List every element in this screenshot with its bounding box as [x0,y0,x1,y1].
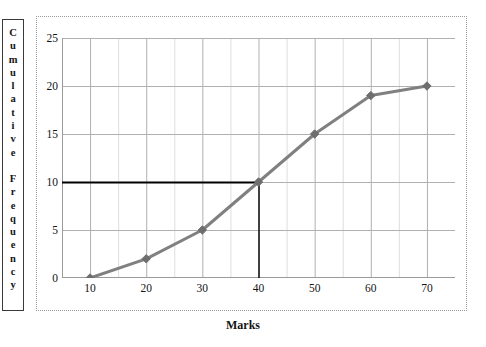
y-axis-tick-label: 25 [32,32,58,44]
y-axis-tick-label: 5 [32,224,58,236]
y-axis-title-letter: u [10,66,16,79]
x-axis-tick-label: 70 [412,282,442,294]
y-axis-title-letter: u [10,39,16,52]
y-axis-title-letter: y [10,278,15,291]
y-axis-title-letter: l [12,79,15,92]
x-axis-tick-label: 30 [187,282,217,294]
y-axis-title-letter: e [11,146,16,159]
data-point-marker [423,82,431,90]
y-axis-title-letter: c [11,265,16,278]
x-axis-tick-label: 20 [131,282,161,294]
x-axis-tick-label: 50 [300,282,330,294]
y-axis-title-letter: q [10,212,16,225]
y-axis-title-letter: e [11,238,16,251]
y-axis-tick-label: 20 [32,80,58,92]
x-axis-tick-label: 60 [356,282,386,294]
chart-screenshot: CumulativeFrequency 0510152025 102030405… [0,0,486,347]
y-axis-tick-label: 10 [32,176,58,188]
y-axis-title-letter: a [10,92,15,105]
y-axis-tick-label: 0 [32,272,58,284]
x-axis-tick-labels: 10203040506070 [62,282,455,302]
plot-area [62,38,455,278]
x-axis-tick-label: 40 [244,282,274,294]
y-axis-title-letter: e [11,199,16,212]
y-axis-title-letter: C [9,26,17,39]
y-axis-title-letter: t [11,106,15,119]
cumulative-frequency-ogive [62,38,455,278]
y-axis-title-letter: r [11,185,16,198]
y-axis-tick-labels: 0510152025 [28,38,58,278]
y-axis-tick-label: 15 [32,128,58,140]
y-axis-title-letter: i [12,119,15,132]
y-axis-title-letter: u [10,225,16,238]
x-axis-title: Marks [0,318,486,333]
y-axis-title-letter: n [10,252,16,265]
x-axis-tick-label: 10 [75,282,105,294]
y-axis-title-letter: m [9,53,18,66]
y-axis-title-letter: v [10,132,15,145]
y-axis-title-box: CumulativeFrequency [2,19,24,311]
y-axis-title-letter: F [10,172,16,185]
